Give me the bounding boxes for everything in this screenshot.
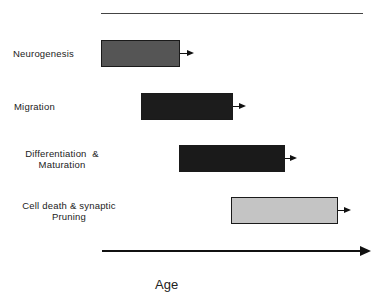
- stage-label-line: Cell death & synaptic: [19, 200, 119, 211]
- arrow-right-icon: [344, 207, 351, 213]
- stage-label-text: Migration: [14, 101, 55, 112]
- stage-label-line: Maturation: [21, 159, 103, 170]
- stage-bar-neurogenesis: [101, 40, 180, 67]
- arrow-right-icon: [239, 103, 246, 109]
- stage-label-text: Neurogenesis: [13, 48, 74, 59]
- stage-label-line: Differentiation &: [21, 148, 103, 159]
- arrow-right-icon: [290, 155, 297, 161]
- stage-label-neurogenesis: Neurogenesis: [13, 48, 74, 59]
- age-axis-label: Age: [155, 277, 178, 292]
- stage-bar-cell-death: [231, 197, 338, 224]
- axis-arrow-icon: [360, 246, 371, 256]
- stage-label-migration: Migration: [14, 101, 55, 112]
- age-axis-line: [102, 250, 362, 252]
- arrow-right-icon: [187, 50, 194, 56]
- stage-label-cell-death: Cell death & synaptic Pruning: [19, 200, 119, 222]
- stage-bar-migration: [141, 93, 233, 120]
- stage-label-differentiation: Differentiation & Maturation: [21, 148, 103, 170]
- stage-label-line: Pruning: [19, 211, 119, 222]
- arrow-line: [180, 53, 187, 54]
- top-rule: [101, 13, 363, 14]
- stage-bar-differentiation: [179, 145, 285, 172]
